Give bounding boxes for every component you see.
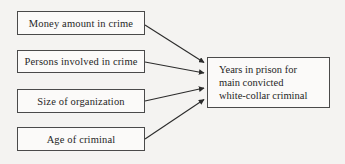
- node-label: Years in prison for main convicted white…: [219, 63, 307, 103]
- node-money-amount-in-crime: Money amount in crime: [17, 11, 145, 35]
- node-size-of-organization: Size of organization: [17, 89, 145, 113]
- node-label: Persons involved in crime: [24, 56, 137, 67]
- node-label: Age of criminal: [47, 134, 116, 145]
- arrow-age-to-years: [145, 100, 204, 140]
- arrow-persons-to-years: [145, 62, 204, 73]
- node-years-in-prison: Years in prison for main convicted white…: [207, 57, 330, 108]
- node-label: Size of organization: [37, 96, 124, 107]
- node-label: Money amount in crime: [29, 18, 133, 29]
- node-age-of-criminal: Age of criminal: [17, 127, 145, 151]
- diagram-canvas: Money amount in crime Persons involved i…: [0, 0, 345, 164]
- node-persons-involved-in-crime: Persons involved in crime: [17, 50, 145, 73]
- arrow-money-to-years: [145, 25, 204, 63]
- arrow-size-to-years: [145, 88, 204, 101]
